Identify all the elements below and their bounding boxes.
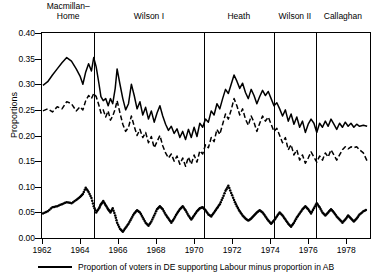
x-tick-mark — [80, 239, 81, 244]
y-tick-label: 0.40 — [3, 29, 35, 37]
era-label: Callaghan — [316, 11, 370, 21]
y-tick-label: 0.00 — [3, 234, 35, 242]
legend: Proportion of voters in DE supporting La… — [38, 262, 334, 272]
era-label: Macmillan– Home — [42, 1, 94, 21]
era-label: Wilson II — [274, 11, 316, 21]
x-tick-mark — [232, 239, 233, 244]
era-label: Heath — [204, 11, 274, 21]
era-divider — [274, 33, 275, 238]
y-tick-label: 0.25 — [3, 106, 35, 114]
legend-line-swatch — [38, 266, 72, 268]
x-tick-mark — [194, 239, 195, 244]
y-tick-label: 0.35 — [3, 55, 35, 63]
series-dashed — [43, 93, 367, 166]
x-tick-label: 1968 — [136, 245, 176, 255]
x-tick-mark — [156, 239, 157, 244]
x-tick-mark — [346, 239, 347, 244]
era-label: Wilson I — [94, 11, 203, 21]
y-tick-label: 0.05 — [3, 208, 35, 216]
x-tick-label: 1966 — [98, 245, 138, 255]
y-tick-label: 0.15 — [3, 157, 35, 165]
y-tick-label: 0.10 — [3, 183, 35, 191]
era-divider — [204, 33, 205, 238]
chart-figure: Macmillan– HomeWilson IHeathWilson IICal… — [0, 0, 381, 276]
x-tick-label: 1978 — [326, 245, 366, 255]
plot-area — [41, 32, 371, 239]
series-layer — [42, 33, 370, 238]
x-tick-label: 1964 — [60, 245, 100, 255]
era-divider — [316, 33, 317, 238]
x-tick-label: 1972 — [212, 245, 252, 255]
era-divider — [94, 33, 95, 238]
x-tick-mark — [42, 239, 43, 244]
series-solid — [43, 58, 367, 140]
y-tick-label: 0.20 — [3, 132, 35, 140]
x-tick-mark — [270, 239, 271, 244]
x-tick-mark — [308, 239, 309, 244]
y-tick-label: 0.30 — [3, 80, 35, 88]
legend-label: Proportion of voters in DE supporting La… — [78, 262, 334, 272]
x-tick-label: 1974 — [250, 245, 290, 255]
x-tick-label: 1962 — [22, 245, 62, 255]
x-tick-label: 1970 — [174, 245, 214, 255]
x-tick-mark — [118, 239, 119, 244]
x-tick-label: 1976 — [288, 245, 328, 255]
